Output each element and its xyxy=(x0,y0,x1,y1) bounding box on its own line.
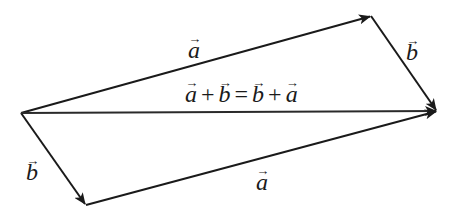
arrow-icon: → xyxy=(219,76,232,89)
vector-symbol-a: → a xyxy=(256,170,268,194)
plus-operator: + xyxy=(268,82,282,106)
equation-label: → a + → b = → b + → a xyxy=(185,82,298,106)
vector-symbol-b: → b xyxy=(219,82,231,106)
vector-symbol-b: → b xyxy=(406,40,418,64)
vector-symbol-b: → b xyxy=(252,82,264,106)
vector-symbol-b: → b xyxy=(26,160,38,184)
vector-diagram xyxy=(0,0,452,224)
label-b-right: → b xyxy=(406,40,418,64)
arrow-icon: → xyxy=(256,164,269,177)
arrow-icon: → xyxy=(26,154,39,167)
label-a-top: → a xyxy=(188,38,200,62)
arrow-icon: → xyxy=(185,76,198,89)
equals-operator: = xyxy=(235,82,249,106)
label-b-left: → b xyxy=(26,160,38,184)
arrow-icon: → xyxy=(406,34,419,47)
vector-sum xyxy=(21,111,436,113)
vector-symbol-a: → a xyxy=(188,38,200,62)
vector-symbol-a: → a xyxy=(286,82,298,106)
label-a-bottom: → a xyxy=(256,170,268,194)
arrow-icon: → xyxy=(252,76,265,89)
vector-symbol-a: → a xyxy=(185,82,197,106)
arrow-icon: → xyxy=(188,32,201,45)
plus-operator: + xyxy=(201,82,215,106)
arrow-icon: → xyxy=(286,76,299,89)
vector-b-right xyxy=(371,16,436,110)
